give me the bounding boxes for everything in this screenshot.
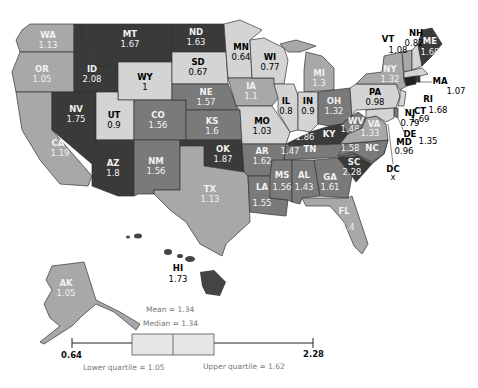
label-al: AL xyxy=(298,170,311,180)
label-mn: MN xyxy=(233,42,249,52)
label-co: CO xyxy=(151,110,164,120)
label-mt: MT xyxy=(123,29,137,39)
value-nj: 0.79 xyxy=(401,118,420,128)
value-ia: 1.1 xyxy=(244,91,258,101)
label-oh: OH xyxy=(327,96,341,106)
value-nd: 1.63 xyxy=(187,37,206,47)
label-wa: WA xyxy=(40,30,56,40)
label-mo: MO xyxy=(254,116,270,126)
value-nc: 1.58 xyxy=(341,143,360,153)
value-wy: 1 xyxy=(142,82,147,92)
us-choropleth-map: WA 1.13 OR 1.05 CA 1.19 ID 2.08 NV 1.75 … xyxy=(0,0,478,388)
label-ak: AK xyxy=(59,278,73,288)
value-mo: 1.03 xyxy=(253,126,272,136)
label-az: AZ xyxy=(107,158,120,168)
label-fl: FL xyxy=(338,206,350,216)
value-sd: 0.67 xyxy=(189,67,208,77)
label-wi: WI xyxy=(264,52,277,62)
label-nd: ND xyxy=(189,27,203,37)
value-fl: 1.4 xyxy=(341,222,355,232)
label-ne: NE xyxy=(200,87,213,97)
label-ut: UT xyxy=(108,110,121,120)
label-ia: IA xyxy=(246,81,256,91)
value-nh: 0.82 xyxy=(405,38,424,48)
value-ky: 1.86 xyxy=(296,132,315,142)
label-tn: TN xyxy=(304,144,317,154)
label-ri: RI xyxy=(423,94,433,104)
value-co: 1.56 xyxy=(149,120,168,130)
value-ga: 1.61 xyxy=(321,182,340,192)
value-ok: 1.87 xyxy=(214,154,233,164)
label-ok: OK xyxy=(216,144,230,154)
label-tx: TX xyxy=(204,184,217,194)
label-sc: SC xyxy=(348,157,360,167)
value-ms: 1.56 xyxy=(273,182,292,192)
value-mn: 0.64 xyxy=(232,52,251,62)
label-la: LA xyxy=(256,182,268,192)
state-fl xyxy=(302,196,368,254)
state-ri xyxy=(416,76,420,82)
label-vt: VT xyxy=(382,34,395,44)
label-ks: KS xyxy=(206,116,219,126)
label-mi: MI xyxy=(313,68,325,78)
value-de: 1.35 xyxy=(419,136,438,146)
value-pa: 0.98 xyxy=(366,97,385,107)
state-ak xyxy=(40,262,140,344)
label-nm: NM xyxy=(148,156,164,166)
value-ar: 1.62 xyxy=(253,156,272,166)
value-ny: 1.32 xyxy=(381,74,400,84)
label-wy: WY xyxy=(137,72,153,82)
state-de xyxy=(394,108,398,118)
value-il: 0.8 xyxy=(279,106,293,116)
state-mi-upper xyxy=(280,40,316,52)
value-me: 1.68 xyxy=(421,47,440,57)
label-ms: MS xyxy=(275,170,290,180)
value-tx: 1.13 xyxy=(201,194,220,204)
label-nv: NV xyxy=(69,104,83,114)
value-ri: 1.68 xyxy=(429,105,448,115)
label-nj: NJ xyxy=(405,108,415,118)
value-wi: 0.77 xyxy=(261,62,280,72)
value-mt: 1.67 xyxy=(121,39,140,49)
value-nm: 1.56 xyxy=(147,166,166,176)
mean-label: Mean = 1.34 xyxy=(146,305,194,314)
state-ct xyxy=(404,76,416,86)
upper-quartile-label: Upper quartile = 1.62 xyxy=(203,362,285,371)
value-la: 1.55 xyxy=(253,198,272,208)
value-hi: 1.73 xyxy=(169,274,188,284)
max-label: 2.28 xyxy=(303,349,324,359)
value-nv: 1.75 xyxy=(67,114,86,124)
value-az: 1.8 xyxy=(106,168,120,178)
value-ma: 1.07 xyxy=(447,86,466,96)
label-ar: AR xyxy=(255,146,269,156)
label-in: IN xyxy=(303,96,313,106)
label-nc: NC xyxy=(365,143,378,153)
label-sd: SD xyxy=(191,57,204,67)
value-or: 1.05 xyxy=(33,74,52,84)
box-plot xyxy=(72,334,313,355)
value-mi: 1.3 xyxy=(312,78,326,88)
label-ny: NY xyxy=(383,64,397,74)
value-md: 0.96 xyxy=(395,146,414,156)
value-oh: 1.32 xyxy=(325,106,344,116)
value-ca: 1.19 xyxy=(51,148,70,158)
value-ks: 1.6 xyxy=(205,126,219,136)
value-in: 0.9 xyxy=(301,106,315,116)
label-ga: GA xyxy=(323,172,337,182)
value-dc: x xyxy=(390,172,395,182)
value-sc: 2.28 xyxy=(343,167,362,177)
value-id: 2.08 xyxy=(83,74,102,84)
value-al: 1.43 xyxy=(295,182,314,192)
label-nh: NH xyxy=(409,28,423,38)
median-label: Median = 1.34 xyxy=(143,319,198,328)
label-pa: PA xyxy=(369,87,381,97)
label-hi: HI xyxy=(173,263,183,273)
value-ut: 0.9 xyxy=(107,120,121,130)
value-va: 1.33 xyxy=(361,128,380,138)
label-ky: KY xyxy=(323,129,337,139)
min-label: 0.64 xyxy=(61,350,82,360)
value-ak: 1.05 xyxy=(57,288,76,298)
value-ne: 1.57 xyxy=(197,97,216,107)
value-wa: 1.13 xyxy=(39,40,58,50)
label-ma: MA xyxy=(432,76,447,86)
